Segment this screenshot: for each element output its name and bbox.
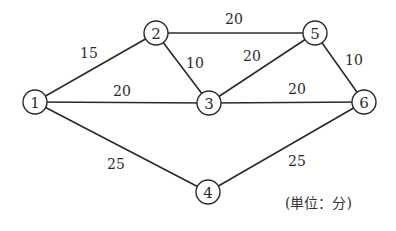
node-2: 2 (144, 21, 168, 45)
node-label-1: 1 (30, 94, 40, 112)
node-1: 1 (23, 90, 47, 114)
node-label-2: 2 (151, 25, 161, 43)
edge-weight-2-3: 10 (186, 55, 204, 71)
edge-weight-1-3: 20 (113, 83, 131, 99)
edge-1-2 (35, 33, 156, 102)
edge-3-6 (209, 102, 364, 103)
edge-4-6 (208, 102, 364, 192)
nodes: 123456 (23, 21, 376, 204)
node-5: 5 (303, 21, 327, 45)
edge-1-4 (35, 102, 208, 192)
edge-weight-3-6: 20 (288, 81, 306, 97)
network-diagram: 152025102020201025 123456 (単位：分) (0, 0, 396, 231)
node-6: 6 (352, 90, 376, 114)
edge-weight-4-6: 25 (288, 153, 306, 169)
node-label-6: 6 (359, 94, 369, 112)
edge-1-3 (35, 102, 209, 103)
node-3: 3 (197, 91, 221, 115)
node-label-4: 4 (203, 184, 213, 202)
edge-weight-1-2: 15 (80, 45, 98, 61)
node-4: 4 (196, 180, 220, 204)
node-label-3: 3 (204, 95, 214, 113)
edge-weight-5-6: 10 (345, 52, 363, 68)
edge-weight-2-5: 20 (225, 11, 243, 27)
edge-weight-3-5: 20 (243, 48, 261, 64)
edge-weight-1-4: 25 (107, 156, 125, 172)
unit-note: (単位：分) (285, 195, 352, 211)
node-label-5: 5 (310, 25, 320, 43)
